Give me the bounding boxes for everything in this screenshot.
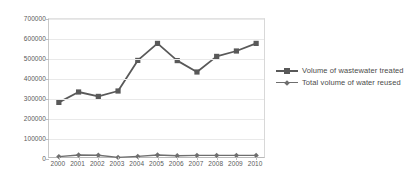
- y-axis-tick: [46, 99, 49, 100]
- legend-item-wastewater-treated: Volume of wastewater treated: [276, 66, 412, 75]
- plot-area: [48, 18, 265, 158]
- y-axis-label: 100000: [2, 135, 46, 142]
- data-point-marker: [234, 48, 239, 53]
- data-point-marker: [115, 88, 120, 93]
- x-axis-label: 2003: [110, 160, 125, 168]
- line-chart: 0100000200000300000400000500000600000700…: [0, 0, 414, 190]
- gridline: [49, 79, 264, 80]
- x-axis-label: 2005: [149, 160, 164, 168]
- y-axis-label: 200000: [2, 115, 46, 122]
- y-axis: 0100000200000300000400000500000600000700…: [0, 18, 46, 158]
- chart-legend: Volume of wastewater treated Total volum…: [276, 66, 412, 90]
- x-axis-label: 2001: [70, 160, 85, 168]
- x-axis-label: 2004: [129, 160, 144, 168]
- series-line-0: [59, 43, 256, 102]
- legend-swatch-diamond-icon: [276, 78, 298, 87]
- gridline: [49, 99, 264, 100]
- data-point-marker: [194, 69, 199, 74]
- gridline: [49, 139, 264, 140]
- x-axis-label: 2009: [228, 160, 243, 168]
- y-axis-label: 500000: [2, 55, 46, 62]
- x-axis: 2000200120022003200420052006200720082009…: [48, 160, 265, 174]
- series-layer: [49, 19, 266, 159]
- x-axis-label: 2006: [169, 160, 184, 168]
- y-axis-tick: [46, 19, 49, 20]
- x-axis-label: 2000: [50, 160, 65, 168]
- y-axis-tick: [46, 39, 49, 40]
- x-axis-label: 2002: [90, 160, 105, 168]
- y-axis-label: 0: [2, 155, 46, 162]
- data-point-marker: [56, 100, 61, 105]
- gridline: [49, 39, 264, 40]
- y-axis-label: 400000: [2, 75, 46, 82]
- x-axis-label: 2007: [189, 160, 204, 168]
- gridline: [49, 119, 264, 120]
- legend-swatch-square-icon: [276, 66, 298, 75]
- data-point-marker: [155, 41, 160, 46]
- y-axis-tick: [46, 119, 49, 120]
- data-point-marker: [254, 41, 259, 46]
- y-axis-label: 700000: [2, 15, 46, 22]
- y-axis-label: 300000: [2, 95, 46, 102]
- y-axis-tick: [46, 79, 49, 80]
- data-point-marker: [76, 89, 81, 94]
- x-axis-label: 2010: [248, 160, 263, 168]
- y-axis-tick: [46, 139, 49, 140]
- legend-item-water-reused: Total volume of water reused: [276, 78, 412, 87]
- legend-label-wastewater-treated: Volume of wastewater treated: [302, 66, 404, 75]
- x-axis-label: 2008: [208, 160, 223, 168]
- gridline: [49, 59, 264, 60]
- legend-label-water-reused: Total volume of water reused: [302, 78, 401, 87]
- gridline: [49, 19, 264, 20]
- y-axis-tick: [46, 59, 49, 60]
- y-axis-label: 600000: [2, 35, 46, 42]
